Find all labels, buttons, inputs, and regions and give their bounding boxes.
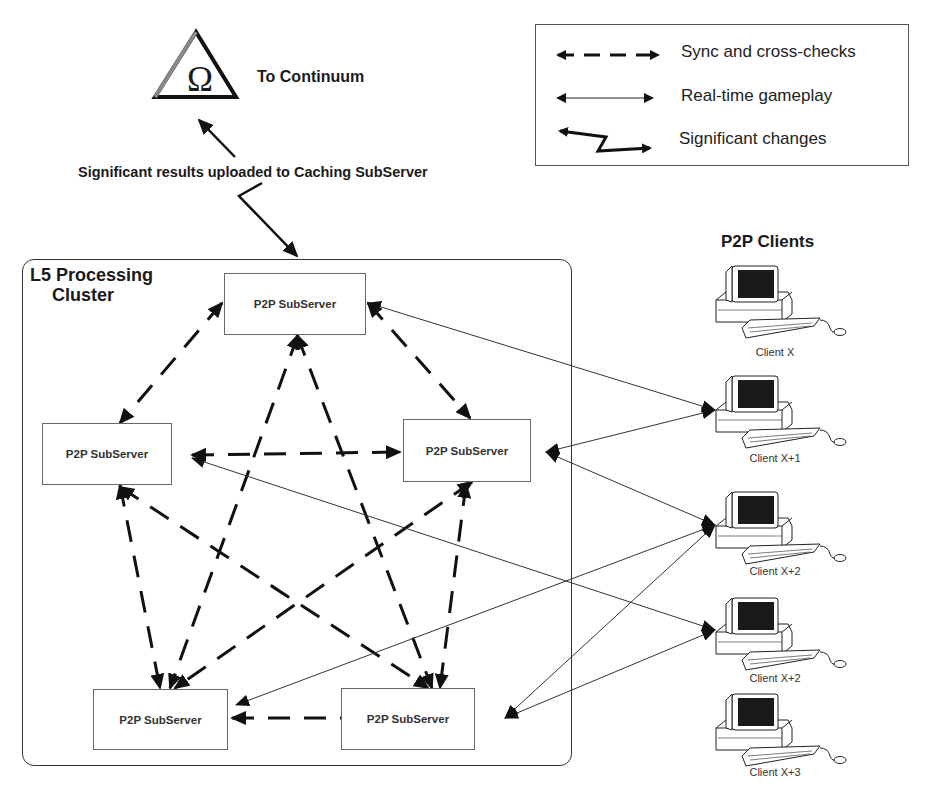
server-left[interactable]: P2P SubServer — [42, 423, 172, 485]
client-icons — [716, 266, 846, 766]
cluster-title-line2: Cluster — [52, 285, 114, 306]
computer-icon[interactable] — [716, 492, 846, 564]
upload-zigzag-arrow — [199, 120, 297, 256]
omega-symbol: Ω — [187, 60, 213, 100]
computer-icon[interactable] — [716, 694, 846, 766]
server-top[interactable]: P2P SubServer — [224, 273, 366, 335]
cluster-title-line1: L5 Processing — [30, 265, 153, 286]
client-label: Client X+3 — [730, 766, 820, 778]
computer-icon[interactable] — [716, 266, 846, 338]
client-label: Client X+2 — [730, 672, 820, 684]
server-right[interactable]: P2P SubServer — [403, 419, 531, 482]
computer-icon[interactable] — [716, 598, 846, 670]
clients-title: P2P Clients — [721, 232, 814, 252]
client-label: Client X+1 — [730, 452, 820, 464]
server-bottom-left[interactable]: P2P SubServer — [93, 689, 228, 750]
server-bottom-right[interactable]: P2P SubServer — [341, 688, 475, 750]
upload-label: Significant results uploaded to Caching … — [78, 164, 428, 180]
client-label: Client X — [730, 346, 820, 358]
client-label: Client X+2 — [730, 565, 820, 577]
continuum-label: To Continuum — [257, 68, 364, 86]
computer-icon[interactable] — [716, 376, 846, 448]
